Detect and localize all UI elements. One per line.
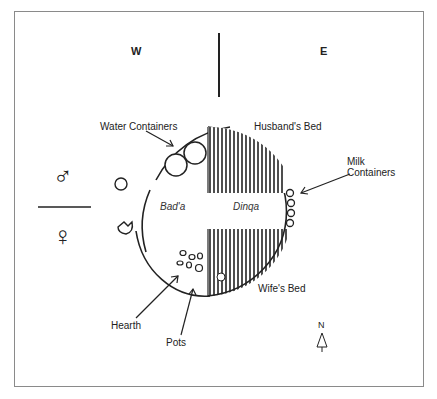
label-husbands-bed: Husband's Bed xyxy=(254,121,322,133)
label-north: N xyxy=(318,319,325,331)
female-symbol-icon: ♀ xyxy=(53,223,73,249)
label-water-containers: Water Containers xyxy=(100,121,177,133)
outside-object-circle xyxy=(115,178,127,190)
north-arrow-icon xyxy=(317,333,327,352)
zone-dinqa: Dinqa xyxy=(233,201,259,213)
zone-badda: Bad'a xyxy=(160,201,185,213)
male-symbol-icon: ♂ xyxy=(53,163,73,189)
hut-floorplan xyxy=(0,0,437,399)
label-pots: Pots xyxy=(166,337,186,349)
milk-containers xyxy=(287,190,295,227)
water-container xyxy=(165,154,187,176)
label-wifes-bed: Wife's Bed xyxy=(258,283,305,295)
east-label: E xyxy=(320,45,327,57)
outside-object xyxy=(118,222,132,234)
label-hearth: Hearth xyxy=(111,320,141,332)
hut-wall-southwest xyxy=(136,231,210,296)
label-milk-line2: Containers xyxy=(347,167,395,179)
bed-post xyxy=(217,273,225,281)
west-label: W xyxy=(131,45,141,57)
pots xyxy=(177,251,203,272)
water-container xyxy=(184,142,206,164)
